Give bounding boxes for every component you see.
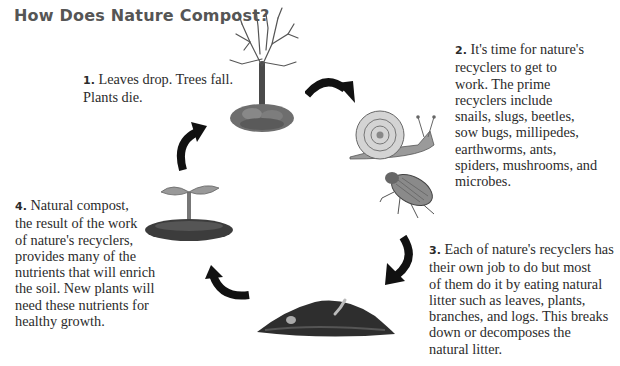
tree-illustration (222, 4, 302, 136)
snail-illustration (348, 105, 438, 163)
beetle-icon (378, 168, 440, 222)
step-3-text: 3. Each of nature's recyclers has their … (429, 241, 620, 357)
step-2-body: It's time for nature's recyclers to get … (455, 41, 597, 189)
curved-arrow-icon (305, 75, 357, 107)
seedling-icon (143, 178, 235, 244)
curved-arrow-icon (383, 235, 417, 287)
snail-icon (348, 105, 438, 163)
step-3-body: Each of nature's recyclers has their own… (429, 241, 614, 357)
step-2-number: 2. (455, 44, 467, 57)
arrow-beetle-to-compost (383, 235, 417, 287)
compost-pile-illustration (255, 290, 395, 342)
step-2-text: 2. It's time for nature's recyclers to g… (455, 41, 620, 190)
beetle-illustration (378, 168, 440, 222)
step-3-number: 3. (429, 244, 441, 257)
step-4-number: 4. (15, 200, 27, 213)
seedling-illustration (143, 178, 235, 244)
curved-arrow-icon (175, 122, 209, 172)
arrow-tree-to-snail (305, 75, 357, 107)
curved-arrow-icon (205, 265, 251, 303)
arrow-compost-to-seedling (205, 265, 251, 303)
step-4-body: Natural compost, the result of the work … (15, 197, 155, 329)
step-1-body: Leaves drop. Trees fall. Plants die. (83, 71, 233, 105)
step-1-number: 1. (83, 74, 95, 87)
compost-pile-icon (255, 290, 395, 342)
bare-tree-icon (222, 4, 302, 136)
arrow-seedling-to-tree (175, 122, 209, 172)
